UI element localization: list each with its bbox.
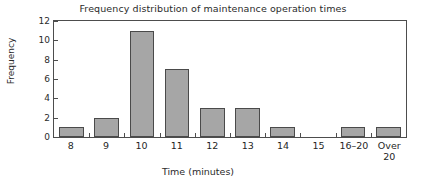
y-tick-label: 4 [44,93,50,103]
bar-slot [195,21,230,137]
bar-slot [124,21,159,137]
bar[interactable] [376,127,401,137]
y-tick-label: 12 [39,16,50,26]
bar-slot [89,21,124,137]
bar-slot [336,21,371,137]
chart-figure: Frequency distribution of maintenance op… [0,0,426,189]
bar[interactable] [130,31,155,137]
y-tick-label: 8 [44,55,50,65]
bar[interactable] [165,69,190,137]
x-tick-label: Over 20 [364,140,415,162]
bar-slot [160,21,195,137]
bar-slot [371,21,406,137]
bar[interactable] [59,127,84,137]
chart-title: Frequency distribution of maintenance op… [0,3,426,14]
bar-slot [230,21,265,137]
plot-area: 024681012 [53,20,407,138]
bar-slot [54,21,89,137]
y-tick-label: 6 [44,74,50,84]
bar[interactable] [270,127,295,137]
bar[interactable] [94,118,119,137]
bar-slot [300,21,335,137]
bar[interactable] [200,108,225,137]
y-tick-mark [54,137,58,138]
y-axis-title: Frequency [6,26,16,96]
y-tick-label: 2 [44,113,50,123]
bars-layer [54,21,406,137]
bar[interactable] [235,108,260,137]
y-tick-label: 10 [39,35,50,45]
bar[interactable] [341,127,366,137]
bar-slot [265,21,300,137]
x-axis-title: Time (minutes) [53,166,343,177]
